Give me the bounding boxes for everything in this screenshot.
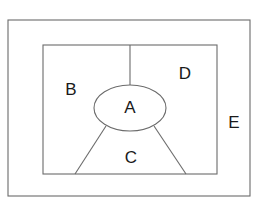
region-label-e: E	[228, 113, 239, 132]
region-label-d: D	[179, 64, 191, 83]
diagram-canvas: A B C D E	[0, 0, 260, 208]
region-label-b: B	[65, 80, 76, 99]
right-diagonal-divider	[154, 126, 186, 174]
left-diagonal-divider	[75, 126, 106, 174]
region-label-a: A	[124, 98, 136, 117]
venn-diagram-svg: A B C D E	[0, 0, 260, 208]
region-label-c: C	[125, 148, 137, 167]
